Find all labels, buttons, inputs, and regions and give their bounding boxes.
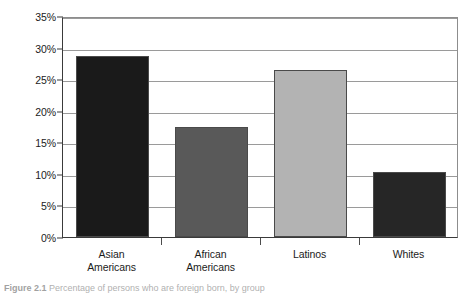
y-axis-tick-label: 25%: [12, 75, 56, 86]
x-axis-category-label-line1: African: [195, 248, 227, 260]
bar-latinos: [274, 70, 347, 237]
x-axis-tick-mark: [260, 238, 261, 245]
gridline: [63, 50, 457, 51]
bar-asian-americans: [76, 56, 149, 237]
x-axis-category-label: Latinos: [260, 248, 359, 261]
y-axis-labels: 0%5%10%15%20%25%30%35%: [6, 0, 56, 291]
y-axis-tick-label: 5%: [12, 201, 56, 212]
bar-whites: [373, 172, 446, 237]
x-axis-category-label: AsianAmericans: [62, 248, 161, 274]
x-axis-category-label-line1: Latinos: [293, 248, 326, 260]
y-axis-tick-label: 30%: [12, 43, 56, 54]
y-axis-tick-label: 0%: [12, 233, 56, 244]
figure-caption-text: Percentage of persons who are foreign bo…: [49, 283, 265, 293]
figure-caption-number: Figure 2.1: [4, 283, 47, 293]
x-axis-category-label: AfricanAmericans: [161, 248, 260, 274]
x-axis-category-label-line1: Whites: [393, 248, 425, 260]
x-axis-category-label-line2: Americans: [62, 261, 161, 274]
bar-african-americans: [175, 127, 248, 238]
x-axis-category-label-line2: Americans: [161, 261, 260, 274]
x-axis-category-label-line1: Asian: [99, 248, 125, 260]
y-axis-tick-label: 10%: [12, 170, 56, 181]
plot-area: [62, 17, 458, 238]
x-axis-tick-mark: [161, 238, 162, 245]
y-axis-tick-label: 20%: [12, 106, 56, 117]
y-axis-tick-label: 35%: [12, 12, 56, 23]
y-axis-tick-label: 15%: [12, 138, 56, 149]
gridline: [63, 18, 457, 19]
x-axis-category-label: Whites: [359, 248, 458, 261]
figure-caption: Figure 2.1 Percentage of persons who are…: [4, 283, 464, 294]
x-axis-tick-mark: [359, 238, 360, 245]
